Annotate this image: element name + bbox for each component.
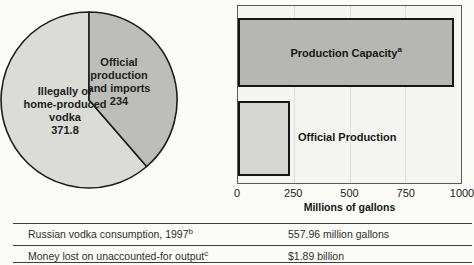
bar-production-capacity: Production Capacitya — [238, 18, 454, 87]
table-row-consumption-label: Russian vodka consumption, 1997b — [28, 228, 193, 240]
table-label-text: Money lost on unaccounted-for output — [28, 250, 204, 262]
footnote-marker-a: a — [397, 45, 401, 54]
x-axis-title: Millions of gallons — [237, 201, 462, 213]
figure-vodka-production: Official production and imports 234 Ille… — [0, 0, 474, 265]
table-rule-bottom — [13, 262, 472, 263]
pie-label-line: home-produced — [10, 98, 120, 111]
footnote-marker-b: b — [189, 227, 193, 236]
table-rule-middle — [13, 245, 472, 246]
bar-label-production-capacity: Production Capacitya — [290, 47, 401, 59]
x-tick-0: 0 — [234, 187, 240, 199]
footnote-marker-c: c — [204, 249, 208, 258]
pie-value-illegal: 371.8 — [10, 124, 120, 137]
table-row-money-lost-label: Money lost on unaccounted-for outputc — [28, 250, 208, 262]
table-label-text: Russian vodka consumption, 1997 — [28, 228, 189, 240]
bar-chart-plot-area: Production Capacitya Official Production — [237, 5, 462, 184]
pie-label-line: vodka — [10, 111, 120, 124]
bar-official-production — [238, 101, 290, 176]
pie-label-illegal-vodka: Illegally or home-produced vodka 371.8 — [10, 85, 120, 137]
x-axis-ticks: 0 250 500 750 1000 — [237, 187, 462, 199]
bar-label-official-production: Official Production — [298, 131, 396, 143]
x-tick-250: 250 — [284, 187, 302, 199]
bar-label-text: Production Capacity — [290, 47, 397, 59]
table-row-consumption-value: 557.96 million gallons — [288, 228, 389, 240]
x-tick-750: 750 — [397, 187, 415, 199]
table-rule-top — [13, 223, 472, 224]
pie-label-line: Official — [77, 56, 161, 69]
table-row-money-lost-value: $1.89 billion — [288, 250, 344, 262]
pie-label-line: production — [77, 69, 161, 82]
x-tick-1000: 1000 — [450, 187, 474, 199]
x-tick-500: 500 — [340, 187, 358, 199]
pie-label-line: Illegally or — [10, 85, 120, 98]
